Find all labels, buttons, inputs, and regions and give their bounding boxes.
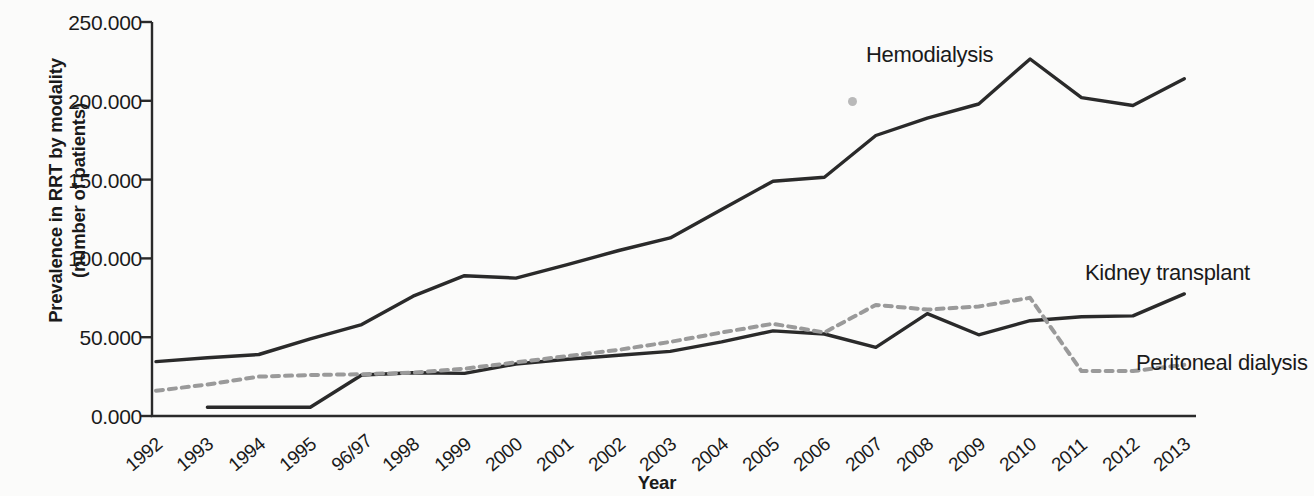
x-axis-tick-label: 1994 — [225, 434, 268, 475]
x-axis-tick-label: 2003 — [636, 434, 679, 475]
series-line-peritoneal-dialysis — [156, 298, 1184, 391]
x-axis-tick-label: 1999 — [431, 434, 474, 475]
y-axis-tick-marks — [141, 22, 152, 416]
chart-figure: Prevalence in RRT by modality (number of… — [0, 0, 1314, 496]
x-axis-tick-label: 96/97 — [328, 431, 375, 475]
series-label-peritoneal-dialysis: Peritoneal dialysis — [1136, 352, 1308, 374]
x-axis-tick-label: 2006 — [790, 434, 833, 475]
x-axis-tick-label: 2011 — [1048, 435, 1090, 475]
x-axis-tick-label: 2008 — [893, 434, 936, 475]
series-label-hemodialysis: Hemodialysis — [866, 44, 993, 66]
x-axis-title: Year — [0, 472, 1314, 494]
x-axis-tick-label: 2010 — [996, 434, 1039, 475]
x-axis-tick-label: 2004 — [688, 434, 731, 475]
x-axis-tick-label: 2012 — [1099, 434, 1142, 475]
x-axis-tick-label: 2000 — [482, 434, 525, 475]
x-axis-tick-label: 1998 — [379, 434, 422, 475]
x-axis-tick-label: 1993 — [173, 434, 216, 475]
x-axis-tick-label: 1992 — [122, 434, 165, 475]
x-axis-tick-label: 1995 — [276, 434, 319, 475]
axis-lines — [141, 22, 1196, 416]
x-axis-tick-label: 2009 — [945, 434, 988, 475]
x-axis-tick-label: 2005 — [739, 434, 782, 475]
plot-area — [0, 0, 1314, 496]
x-axis-tick-label: 2002 — [585, 434, 628, 475]
scan-speck-artifact — [848, 97, 857, 106]
series-layer — [156, 59, 1184, 407]
series-line-hemodialysis — [156, 59, 1184, 362]
series-label-kidney-transplant: Kidney transplant — [1085, 262, 1250, 284]
x-axis-tick-label: 2007 — [842, 434, 885, 475]
x-axis-tick-label: 2001 — [533, 434, 576, 475]
axis-spine — [152, 22, 1196, 416]
x-axis-tick-label: 2013 — [1150, 434, 1193, 475]
